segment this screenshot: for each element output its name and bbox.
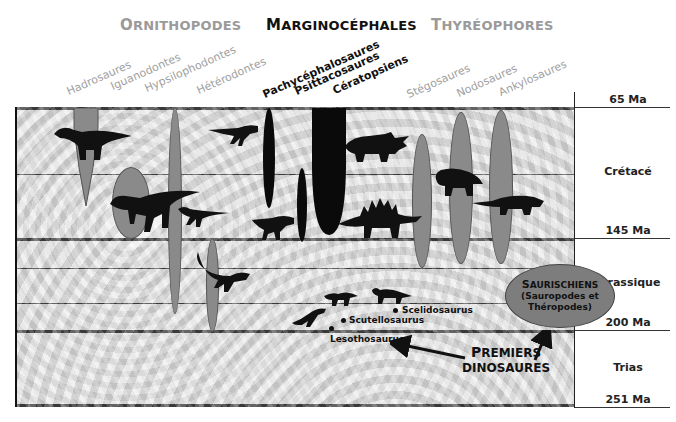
saurischiens-line3: Théropodes) xyxy=(528,302,592,313)
ankylosaur-silhouette-icon xyxy=(472,193,546,215)
spindle-ankylosaures xyxy=(489,110,513,264)
scutellosaurus-dot xyxy=(341,318,346,323)
theropod-small-silhouette-icon xyxy=(208,124,260,146)
boundary-label-65ma: 65 Ma xyxy=(580,93,676,106)
group-title-marginocephales: MARGINOCÉPHALES xyxy=(266,16,417,34)
scelidosaur-silhouette-icon xyxy=(372,286,412,304)
line-jurassic-upper xyxy=(15,268,575,269)
lesothosaur-silhouette-icon xyxy=(292,307,328,327)
genus-label-scelidosaurus: Scelidosaurus xyxy=(402,305,473,315)
boundary-rule-251ma xyxy=(575,407,670,408)
chart-right-border xyxy=(574,92,575,408)
triceratops-silhouette-icon xyxy=(345,132,411,164)
saurischiens-line2: (Sauropodes et xyxy=(521,291,599,302)
boundary-label-145ma: 145 Ma xyxy=(580,224,676,237)
genus-label-scutellosaurus: Scutellosaurus xyxy=(349,315,424,325)
hadrosaur-silhouette-icon xyxy=(52,124,134,164)
nodosaur-silhouette-icon xyxy=(433,168,483,196)
scelidosaurus-dot xyxy=(393,308,398,313)
arrows-icon xyxy=(390,330,560,380)
line-jurassic-lower xyxy=(15,303,575,304)
stegosaur-silhouette-icon xyxy=(338,194,422,240)
lesothosaurus-dot xyxy=(329,326,334,331)
group-title-thyreophores: THYRÉOPHORES xyxy=(431,16,554,34)
early-ornithischian-silhouette-icon xyxy=(324,290,360,306)
hypsilophodon-silhouette-icon xyxy=(178,205,230,227)
boundary-rule-200ma xyxy=(575,330,670,331)
line-251ma xyxy=(15,404,575,407)
boundary-rule-145ma xyxy=(575,238,670,239)
spindle-psittacosaures xyxy=(297,168,307,242)
group-title-ornithopodes: ORNITHOPODES xyxy=(120,16,241,34)
saurischiens-title: SAURISCHIENS xyxy=(522,279,598,291)
psittacosaur-silhouette-icon xyxy=(252,214,296,240)
period-label-trias: Trias xyxy=(580,361,676,374)
boundary-rule-65ma xyxy=(575,107,670,108)
boundary-label-251ma: 251 Ma xyxy=(580,393,676,406)
heterodontosaur-silhouette-icon xyxy=(194,252,254,292)
period-label-cretace: Crétacé xyxy=(580,165,676,178)
chart-left-border xyxy=(15,107,17,407)
spindle-pachycephalosaures xyxy=(263,108,275,208)
saurischiens-ellipse: SAURISCHIENS (Sauropodes et Théropodes) xyxy=(505,264,615,328)
